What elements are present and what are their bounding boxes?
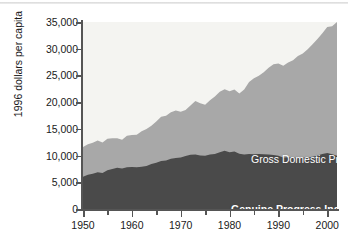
x-tick-label: 1950 [71,219,94,231]
x-tick-label: 1990 [267,219,290,231]
x-axis-tick-labels: 195019601970198019902000 [0,0,348,242]
x-tick-label: 1980 [218,219,241,231]
x-tick-label: 2000 [316,219,339,231]
x-tick-label: 1960 [120,219,143,231]
x-tick-label: 1970 [169,219,192,231]
chart-figure: 1996 dollars per capita 05,00010,00015,0… [0,0,348,242]
